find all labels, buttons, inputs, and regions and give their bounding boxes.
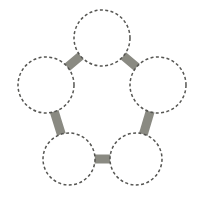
- diagram-canvas: [0, 0, 204, 202]
- node-circle: [43, 133, 95, 185]
- pentagon-ring-diagram: [0, 0, 204, 202]
- node-circle: [18, 57, 74, 113]
- node-circle: [110, 133, 162, 185]
- node-circle: [130, 57, 186, 113]
- node-circle: [74, 10, 130, 66]
